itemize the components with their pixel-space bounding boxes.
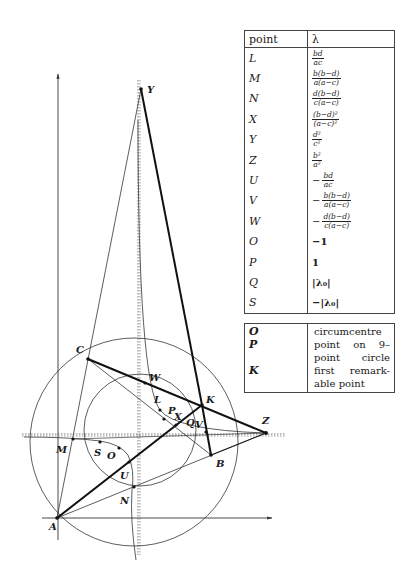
denominator: c² [313, 140, 320, 148]
point-cell: S [245, 293, 308, 314]
label-C: C [76, 344, 84, 355]
lambda-cell: (b−d)²(a−c)² [308, 109, 395, 129]
lambda-value: −|λ₀| [312, 297, 339, 308]
dot-M [71, 437, 74, 440]
lambda-cell: b²a² [308, 150, 395, 170]
label-M: M [55, 444, 68, 455]
lambda-cell: −d(b−d)c(a−c) [308, 211, 395, 231]
table-row: Q|λ₀| [245, 272, 395, 292]
label-B: B [215, 458, 224, 469]
dot-S [98, 440, 101, 443]
label-A: A [48, 521, 57, 532]
table-row: O−1 [245, 232, 395, 252]
lambda-cell: 1 [308, 252, 395, 272]
legend-table: O P K circumcentre point on 9–point circ… [244, 323, 395, 393]
dot-V [204, 430, 207, 433]
lambda-cell: −b(b−d)a(a−c) [308, 191, 395, 211]
point-cell: X [245, 109, 308, 129]
fraction: d(b−d)c(a−c) [322, 213, 351, 230]
dot-L [158, 408, 161, 411]
legend-point-blank [249, 351, 303, 364]
dot-X [174, 423, 177, 426]
denominator: c(a−c) [314, 99, 339, 107]
lambda-cell: −bdac [308, 170, 395, 190]
table-body: LbdacMb(b−d)a(a−c)Nd(b−d)c(a−c)X(b−d)²(a… [245, 48, 395, 314]
denominator: a(a−c) [314, 79, 339, 87]
point-cell: U [245, 170, 308, 190]
label-S: S [94, 447, 101, 458]
dot-K [200, 403, 204, 407]
dot-W [143, 381, 146, 384]
fraction: bdac [312, 50, 324, 67]
minus-sign: − [312, 195, 320, 206]
dot-N [132, 485, 135, 488]
point-cell: O [245, 232, 308, 252]
fraction: (b−d)²(a−c)² [312, 111, 339, 128]
fraction: bdac [322, 172, 334, 189]
point-cell: L [245, 48, 308, 69]
point-cell: W [245, 211, 308, 231]
denominator: ac [313, 59, 322, 67]
table-row: Mb(b−d)a(a−c) [245, 68, 395, 88]
label-U: U [120, 470, 130, 481]
legend-row: O P K circumcentre point on 9–point circ… [245, 324, 395, 393]
table-row: V−b(b−d)a(a−c) [245, 191, 395, 211]
minus-sign: − [312, 216, 320, 227]
table-row: Zb²a² [245, 150, 395, 170]
label-V: V [195, 419, 204, 430]
point-cell: M [245, 68, 308, 88]
fraction: b²a² [312, 152, 322, 169]
lambda-value: −1 [312, 236, 327, 247]
lambda-cell: −1 [308, 232, 395, 252]
dot-C [86, 357, 90, 361]
table-row: S−|λ₀| [245, 293, 395, 314]
dot-Y [139, 87, 143, 91]
dot-U [127, 460, 130, 463]
dot-B [209, 453, 213, 457]
dot-P [162, 417, 165, 420]
label-Z: Z [261, 415, 270, 426]
fraction: d²c² [312, 131, 322, 148]
line-Y-K [141, 89, 202, 405]
table-row: Yd²c² [245, 130, 395, 150]
legend-points: O P K [245, 324, 308, 393]
lambda-table: point λ LbdacMb(b−d)a(a−c)Nd(b−d)c(a−c)X… [244, 30, 395, 314]
legend-point-O: O [249, 325, 303, 338]
label-Y: Y [147, 84, 155, 95]
table-row: W−d(b−d)c(a−c) [245, 211, 395, 231]
lambda-cell: d(b−d)c(a−c) [308, 89, 395, 109]
denominator: a(a−c) [324, 201, 349, 209]
label-O: O [107, 450, 116, 461]
point-cell: P [245, 252, 308, 272]
point-cell: N [245, 89, 308, 109]
dot-O [117, 446, 120, 449]
point-cell: Q [245, 272, 308, 292]
label-N: N [119, 495, 130, 506]
label-W: W [149, 372, 162, 383]
minus-sign: − [312, 175, 320, 186]
point-cell: Y [245, 130, 308, 150]
point-cell: V [245, 191, 308, 211]
lambda-value: 1 [312, 257, 319, 268]
fraction: d(b−d)c(a−c) [312, 90, 341, 107]
lambda-cell: −|λ₀| [308, 293, 395, 314]
legend-point-P: P [249, 338, 303, 351]
table-row: Nd(b−d)c(a−c) [245, 89, 395, 109]
dot-Z [264, 431, 268, 435]
point-cell: Z [245, 150, 308, 170]
table-row: X(b−d)²(a−c)² [245, 109, 395, 129]
label-Q: Q [186, 417, 195, 428]
legend-description: circumcentre point on 9–point circle fir… [308, 324, 395, 393]
lambda-value: |λ₀| [312, 277, 331, 288]
lambda-cell: |λ₀| [308, 272, 395, 292]
lambda-cell: bdac [308, 48, 395, 69]
table-row: P1 [245, 252, 395, 272]
legend-point-K: K [249, 364, 303, 377]
denominator: c(a−c) [324, 222, 349, 230]
line-K-B [202, 405, 211, 455]
label-L: L [153, 394, 161, 405]
denominator: a² [313, 161, 320, 169]
table-row: U−bdac [245, 170, 395, 190]
fraction: b(b−d)a(a−c) [312, 70, 341, 87]
denominator: ac [324, 181, 333, 189]
